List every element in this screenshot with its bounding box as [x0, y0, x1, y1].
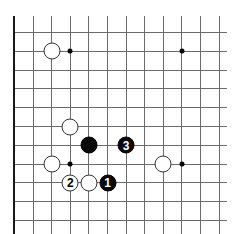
grid-line-horizontal [14, 126, 227, 127]
star-point [68, 162, 73, 167]
grid-line-horizontal [14, 107, 227, 108]
black-stone [80, 137, 97, 154]
black-stone: 1 [99, 174, 116, 191]
go-board: 321 [0, 0, 238, 234]
white-stone [80, 174, 97, 191]
black-stone: 3 [118, 137, 135, 154]
white-stone: 2 [62, 174, 79, 191]
white-stone [43, 156, 60, 173]
grid-line-horizontal [14, 70, 227, 71]
white-stone [43, 43, 60, 60]
star-point [179, 49, 184, 54]
grid-line-horizontal [14, 32, 227, 33]
board-edge-left [13, 16, 15, 234]
grid-line-horizontal [14, 201, 227, 202]
star-point [179, 162, 184, 167]
white-stone [155, 156, 172, 173]
grid-line-horizontal [14, 220, 227, 221]
white-stone [62, 118, 79, 135]
star-point [68, 49, 73, 54]
grid-line-horizontal [14, 88, 227, 89]
grid-line-horizontal [14, 182, 227, 183]
